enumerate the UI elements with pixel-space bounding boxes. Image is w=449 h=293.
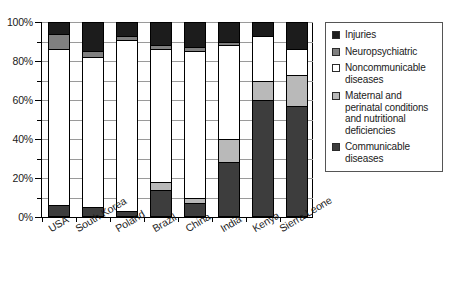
x-tick xyxy=(178,217,179,222)
bar-segment-injuries xyxy=(286,22,308,49)
bar-segment-injuries xyxy=(252,22,274,36)
legend-swatch-neuropsychiatric-icon xyxy=(332,48,340,56)
bar-segment-injuries xyxy=(184,22,206,47)
bar-segment-noncommunicable xyxy=(252,36,274,81)
legend-label-communicable-diseases: Communicable diseases xyxy=(345,141,437,164)
y-tick-label-40: 40% xyxy=(13,133,33,145)
legend-item-maternal-perinatal[interactable]: Maternal and perinatal conditions and nu… xyxy=(332,90,437,136)
x-tick xyxy=(246,217,247,222)
plot-area xyxy=(42,22,313,217)
bar-segment-maternal xyxy=(150,182,172,190)
legend-label-injuries: Injuries xyxy=(345,29,376,41)
bar-brazil[interactable] xyxy=(150,22,172,217)
bar-segment-noncommunicable xyxy=(286,49,308,74)
bar-segment-neuropsychiatric xyxy=(218,42,240,46)
bar-segment-neuropsychiatric xyxy=(150,45,172,49)
bar-kenya[interactable] xyxy=(252,22,274,217)
bar-segment-neuropsychiatric xyxy=(82,51,104,57)
bar-segment-neuropsychiatric xyxy=(116,36,138,40)
bar-india[interactable] xyxy=(218,22,240,217)
bar-poland[interactable] xyxy=(116,22,138,217)
bar-segment-noncommunicable xyxy=(150,49,172,182)
y-tick-label-0: 0% xyxy=(18,211,33,223)
x-tick xyxy=(42,217,43,222)
y-tick-label-100: 100% xyxy=(7,16,33,28)
bar-segment-noncommunicable xyxy=(82,57,104,207)
bar-south-korea[interactable] xyxy=(82,22,104,217)
bar-segment-injuries xyxy=(150,22,172,45)
legend-label-neuropsychiatric: Neuropsychiatric xyxy=(345,46,417,58)
bar-sierra-leone[interactable] xyxy=(286,22,308,217)
bar-segment-communicable xyxy=(286,106,308,217)
legend: Injuries Neuropsychiatric Noncommunicabl… xyxy=(325,22,443,172)
bar-segment-injuries xyxy=(218,22,240,42)
y-major-tick xyxy=(35,100,41,101)
bar-china[interactable] xyxy=(184,22,206,217)
legend-swatch-noncommunicable-icon xyxy=(332,64,340,72)
bar-segment-injuries xyxy=(116,22,138,36)
stacked-bar-chart: 100% 80% 60% 40% 20% 0% USA So xyxy=(0,0,449,293)
y-minor-tick xyxy=(37,42,41,43)
bar-segment-injuries xyxy=(82,22,104,51)
bar-segment-neuropsychiatric xyxy=(184,47,206,51)
y-major-tick xyxy=(35,61,41,62)
bar-segment-noncommunicable xyxy=(184,51,206,197)
bar-segment-noncommunicable xyxy=(48,49,70,205)
bar-segment-maternal xyxy=(252,81,274,101)
bar-segment-injuries xyxy=(48,22,70,34)
bar-segment-communicable xyxy=(218,162,240,217)
y-axis: 100% 80% 60% 40% 20% 0% xyxy=(0,0,42,293)
bar-segment-neuropsychiatric xyxy=(48,34,70,50)
bar-segment-maternal xyxy=(286,75,308,106)
bar-segment-noncommunicable xyxy=(218,45,240,139)
legend-swatch-communicable-icon xyxy=(332,143,340,151)
legend-item-communicable-diseases[interactable]: Communicable diseases xyxy=(332,141,437,164)
legend-label-noncommunicable-diseases: Noncommunicable diseases xyxy=(345,62,437,85)
y-major-tick xyxy=(35,139,41,140)
legend-swatch-injuries-icon xyxy=(332,31,340,39)
legend-item-injuries[interactable]: Injuries xyxy=(332,29,437,41)
legend-item-neuropsychiatric[interactable]: Neuropsychiatric xyxy=(332,46,437,58)
bar-usa[interactable] xyxy=(48,22,70,217)
bar-segment-communicable xyxy=(252,100,274,217)
y-minor-tick xyxy=(37,81,41,82)
x-tick xyxy=(110,217,111,222)
legend-label-maternal-perinatal: Maternal and perinatal conditions and nu… xyxy=(345,90,437,136)
y-major-tick xyxy=(35,22,41,23)
bar-segment-noncommunicable xyxy=(116,40,138,212)
y-tick-label-20: 20% xyxy=(13,172,33,184)
y-minor-tick xyxy=(37,120,41,121)
y-major-tick xyxy=(35,178,41,179)
legend-item-noncommunicable-diseases[interactable]: Noncommunicable diseases xyxy=(332,62,437,85)
y-tick-label-80: 80% xyxy=(13,55,33,67)
legend-swatch-maternal-icon xyxy=(332,92,340,100)
y-minor-tick xyxy=(37,159,41,160)
y-tick-label-60: 60% xyxy=(13,94,33,106)
bar-segment-maternal xyxy=(184,198,206,204)
y-minor-tick xyxy=(37,198,41,199)
bar-segment-maternal xyxy=(218,139,240,162)
